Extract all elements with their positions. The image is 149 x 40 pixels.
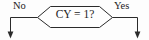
arrowhead-yes-branch-icon xyxy=(135,32,141,39)
connector-yes-branch xyxy=(113,18,138,33)
edge-label-yes: Yes xyxy=(114,1,129,12)
edge-label-no: No xyxy=(13,1,26,12)
decision-condition-label: CY = 1? xyxy=(46,9,104,21)
flowchart-decision-fragment: CY = 1? No Yes xyxy=(0,0,149,40)
connector-no-branch xyxy=(11,18,38,33)
arrowhead-no-branch-icon xyxy=(8,32,14,39)
